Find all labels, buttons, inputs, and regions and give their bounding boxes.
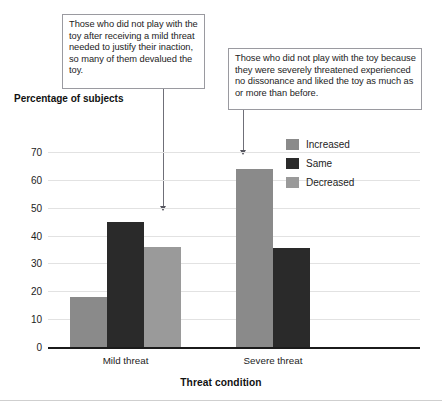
figure-container: Those who did not play with the toy afte… [0, 0, 442, 413]
bar-mild-threat-increased [70, 297, 107, 347]
gridline [48, 180, 420, 181]
x-axis-line [48, 347, 420, 349]
gridline [48, 263, 420, 264]
gridline [48, 152, 420, 153]
bar-mild-threat-same [107, 222, 144, 347]
legend-item: Increased [286, 136, 354, 152]
y-axis-tick-label: 70 [31, 147, 42, 158]
legend-swatch-icon [286, 139, 299, 150]
y-axis-tick-label: 20 [31, 286, 42, 297]
legend-item: Decreased [286, 174, 354, 190]
legend-label: Decreased [306, 177, 354, 188]
legend: IncreasedSameDecreased [286, 136, 354, 193]
y-axis-tick-label: 0 [36, 342, 42, 353]
y-axis-tick-label: 30 [31, 258, 42, 269]
gridline [48, 291, 420, 292]
annotation-callout-mild: Those who did not play with the toy afte… [62, 14, 205, 89]
plot-area: 010203040506070 Mild threatSevere threat [48, 145, 420, 348]
bar-severe-threat-increased [236, 169, 273, 347]
bar-mild-threat-decreased [144, 247, 181, 347]
y-axis-tick-label: 50 [31, 202, 42, 213]
legend-label: Increased [306, 139, 350, 150]
legend-label: Same [306, 158, 332, 169]
gridline [48, 208, 420, 209]
legend-item: Same [286, 155, 354, 171]
legend-swatch-icon [286, 158, 299, 169]
annotation-callout-severe: Those who did not play with the toy beca… [228, 48, 422, 110]
x-axis-group-label: Mild threat [103, 355, 149, 366]
y-axis-tick-label: 40 [31, 230, 42, 241]
x-axis-group-label: Severe threat [244, 355, 303, 366]
figure-bottom-rule [0, 400, 442, 401]
y-axis-tick-label: 60 [31, 174, 42, 185]
y-axis-title: Percentage of subjects [14, 93, 124, 106]
bar-severe-threat-same [273, 248, 310, 347]
x-axis-title: Threat condition [0, 377, 442, 388]
legend-swatch-icon [286, 177, 299, 188]
y-axis-tick-label: 10 [31, 314, 42, 325]
gridline [48, 236, 420, 237]
